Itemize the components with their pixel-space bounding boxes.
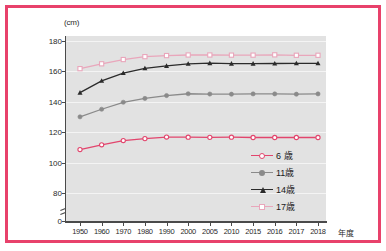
legend-marker-icon xyxy=(251,201,273,213)
x-axis-tick-label: 2017 xyxy=(289,227,305,236)
data-point xyxy=(316,92,320,96)
data-point xyxy=(251,92,255,96)
data-point xyxy=(316,53,320,57)
x-axis-tick-mark xyxy=(167,222,168,226)
data-point xyxy=(186,135,190,139)
data-point xyxy=(78,147,82,151)
y-axis-tick-label: 120 xyxy=(49,128,62,137)
data-point xyxy=(164,135,168,139)
x-axis-tick-label: 2018 xyxy=(310,227,326,236)
y-axis-tick-label: 180 xyxy=(49,37,62,46)
data-point xyxy=(316,135,320,139)
data-point xyxy=(229,135,233,139)
legend-marker-icon xyxy=(251,184,273,196)
x-axis-tick-label: 1950 xyxy=(72,227,88,236)
x-axis-tick-mark xyxy=(275,222,276,226)
legend-label: 6 歳 xyxy=(276,149,293,162)
legend-marker-icon xyxy=(251,167,273,179)
x-axis-tick-label: 2015 xyxy=(245,227,261,236)
y-axis-unit-label: (cm) xyxy=(64,18,79,27)
data-point xyxy=(100,143,104,147)
data-point xyxy=(143,55,147,59)
data-point xyxy=(121,138,125,142)
legend-item-4[interactable]: 17歳 xyxy=(251,198,327,215)
x-axis-tick-label: 2016 xyxy=(267,227,283,236)
legend-item-1[interactable]: 6 歳 xyxy=(251,147,327,164)
x-axis-tick-mark xyxy=(318,222,319,226)
y-axis-tick-label: 100 xyxy=(49,158,62,167)
data-point xyxy=(186,92,190,96)
x-axis-tick-label: 2010 xyxy=(224,227,240,236)
data-point xyxy=(121,100,125,104)
legend-item-2[interactable]: 11歳 xyxy=(251,164,327,181)
data-point xyxy=(164,93,168,97)
legend-label: 14歳 xyxy=(276,183,295,196)
x-axis-tick-mark xyxy=(102,222,103,226)
legend-item-3[interactable]: 14歳 xyxy=(251,181,327,198)
data-point xyxy=(143,136,147,140)
x-axis-tick-mark xyxy=(231,222,232,226)
x-axis-tick-mark xyxy=(296,222,297,226)
data-point xyxy=(186,53,190,57)
legend-label: 17歳 xyxy=(276,200,295,213)
y-axis-tick-label: 140 xyxy=(49,97,62,106)
x-axis-line xyxy=(65,221,327,223)
x-axis-title: 年度 xyxy=(338,227,354,238)
data-point xyxy=(273,53,277,57)
data-point xyxy=(251,135,255,139)
series-4 xyxy=(78,53,320,71)
data-point xyxy=(229,53,233,57)
x-axis-tick-mark xyxy=(145,222,146,226)
data-point xyxy=(273,135,277,139)
series-line xyxy=(80,63,318,92)
x-axis-tick-mark xyxy=(188,222,189,226)
data-point xyxy=(78,115,82,119)
chart-legend: 6 歳11歳14歳17歳 xyxy=(251,147,327,215)
data-point xyxy=(208,53,212,57)
series-3 xyxy=(78,61,321,95)
series-2 xyxy=(78,92,320,119)
data-point xyxy=(294,135,298,139)
y-axis-tick-label: 160 xyxy=(49,67,62,76)
data-point xyxy=(121,57,125,61)
x-axis-tick-mark xyxy=(123,222,124,226)
data-point xyxy=(208,135,212,139)
x-axis-tick-label: 1970 xyxy=(116,227,132,236)
x-axis-tick-label: 2005 xyxy=(202,227,218,236)
data-point xyxy=(273,92,277,96)
x-axis-tick-label: 1960 xyxy=(94,227,110,236)
x-axis-tick-mark xyxy=(210,222,211,226)
data-point xyxy=(100,62,104,66)
data-point xyxy=(294,53,298,57)
data-point xyxy=(100,107,104,111)
x-axis-tick-label: 1980 xyxy=(137,227,153,236)
y-axis-tick-labels: 180160140120100800 xyxy=(34,8,62,240)
data-point xyxy=(164,53,168,57)
chart-canvas: (cm) 180160140120100800 1950196019701980… xyxy=(8,8,378,240)
legend-label: 11歳 xyxy=(276,166,294,179)
series-line xyxy=(80,55,318,69)
chart-frame: (cm) 180160140120100800 1950196019701980… xyxy=(5,5,381,243)
x-axis-tick-label: 2000 xyxy=(180,227,196,236)
data-point xyxy=(143,96,147,100)
data-point xyxy=(294,92,298,96)
data-point xyxy=(78,67,82,71)
legend-marker-icon xyxy=(251,150,273,162)
data-point xyxy=(229,92,233,96)
series-line xyxy=(80,94,318,117)
data-point xyxy=(208,92,212,96)
data-point xyxy=(251,53,255,57)
x-axis-tick-mark xyxy=(253,222,254,226)
x-axis-tick-mark xyxy=(80,222,81,226)
x-axis-tick-label: 1990 xyxy=(159,227,175,236)
y-axis-tick-label: 80 xyxy=(53,189,62,198)
